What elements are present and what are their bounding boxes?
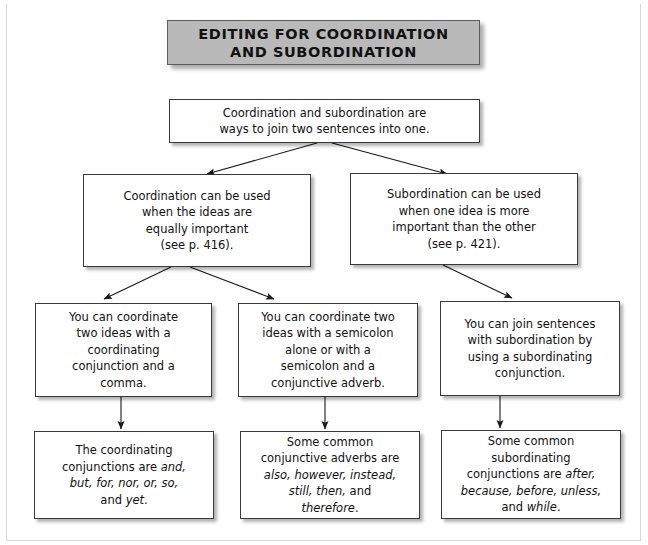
sub3-italic: after, xyxy=(565,467,595,481)
node-coord-semicolon-line2: ideas with a semicolon xyxy=(261,325,395,342)
adv4-italic: still, then, xyxy=(289,484,346,498)
node-subordination: Subordination can be used when one idea … xyxy=(350,173,578,265)
node-conjunctive-adverb-list-line3: also, however, instead, xyxy=(261,467,399,484)
sub3-plain: conjunctions are xyxy=(467,467,566,481)
list3-italic: but, for, nor, or, so, xyxy=(70,476,179,490)
node-subord-conjunction-line3: using a subordinating xyxy=(465,349,596,366)
node-coord-conjunction-line1: You can coordinate xyxy=(69,309,178,326)
node-subord-conjunction-list-line1: Some common xyxy=(461,433,601,450)
node-subord-conjunction-line1: You can join sentences xyxy=(465,316,596,333)
node-coordination-line2: when the ideas are xyxy=(123,204,270,221)
edge-coordination-to-coord-semicolon xyxy=(190,267,274,299)
node-coord-semicolon-line5: conjunctive adverb. xyxy=(261,375,395,392)
list4-end: . xyxy=(144,493,148,507)
node-coord-conjunction-list-line1: The coordinating xyxy=(62,442,186,459)
node-subord-conjunction-list-line2: subordinating xyxy=(461,450,601,467)
node-coord-semicolon-line1: You can coordinate two xyxy=(261,309,395,326)
node-conjunctive-adverb-list-line1: Some common xyxy=(261,434,399,451)
node-subordination-line3: important than the other xyxy=(387,219,541,236)
node-subord-conjunction: You can join sentences with subordinatio… xyxy=(440,301,620,396)
page-rule-left xyxy=(6,4,7,541)
adv3-italic: also, however, instead, xyxy=(264,468,396,482)
node-subord-conjunction-list-line5: and while. xyxy=(461,499,601,516)
node-coord-conjunction-list-line4: and yet. xyxy=(62,492,186,509)
node-coord-conjunction-list-line3: but, for, nor, or, so, xyxy=(62,475,186,492)
edge-subordination-to-subord-conjunction xyxy=(443,265,512,298)
diagram-title-line2: AND SUBORDINATION xyxy=(198,43,448,61)
list2-plain: conjunctions are xyxy=(62,460,161,474)
node-coord-conjunction-line4: conjunction and a xyxy=(69,358,178,375)
node-subord-conjunction-line2: with subordination by xyxy=(465,332,596,349)
node-subordination-line2: when one idea is more xyxy=(387,203,541,220)
node-coord-semicolon-line3: alone or with a xyxy=(261,342,395,359)
edge-root-to-coordination xyxy=(207,143,317,174)
node-subord-conjunction-list-line4: because, before, unless, xyxy=(461,483,601,500)
list2-italic: and, xyxy=(161,460,186,474)
node-coord-conjunction-list: The coordinating conjunctions are and, b… xyxy=(34,431,214,519)
node-conjunctive-adverb-list-line4: still, then, and xyxy=(261,483,399,500)
node-coord-conjunction-list-line2: conjunctions are and, xyxy=(62,459,186,476)
node-subord-conjunction-list: Some common subordinating conjunctions a… xyxy=(441,430,621,519)
sub5-plain: and xyxy=(501,500,526,514)
sub5-end: . xyxy=(557,500,561,514)
edge-root-to-subordination xyxy=(332,143,447,174)
node-coordination-line3: equally important xyxy=(123,221,270,238)
node-coord-conjunction-line2: two ideas with a xyxy=(69,325,178,342)
node-coord-conjunction: You can coordinate two ideas with a coor… xyxy=(35,303,212,397)
diagram-title-line1: EDITING FOR COORDINATION xyxy=(198,25,448,43)
node-coordination: Coordination can be used when the ideas … xyxy=(83,174,311,267)
page-rule-right xyxy=(640,4,641,541)
node-root: Coordination and subordination are ways … xyxy=(169,99,480,143)
sub4-italic: because, before, unless, xyxy=(461,484,601,498)
node-root-line2: ways to join two sentences into one. xyxy=(219,121,429,138)
node-subordination-line1: Subordination can be used xyxy=(387,186,541,203)
node-conjunctive-adverb-list-line2: conjunctive adverbs are xyxy=(261,450,399,467)
diagram-title-banner: EDITING FOR COORDINATION AND SUBORDINATI… xyxy=(167,20,480,65)
sub5-italic: while xyxy=(527,500,557,514)
page-rule-bottom xyxy=(6,540,641,541)
node-subord-conjunction-list-line3: conjunctions are after, xyxy=(461,466,601,483)
list4-plain: and xyxy=(100,493,125,507)
node-coord-conjunction-line3: coordinating xyxy=(69,342,178,359)
node-coord-semicolon-line4: semicolon and a xyxy=(261,358,395,375)
edge-coordination-to-coord-conjunction xyxy=(104,267,171,299)
node-subordination-line4: (see p. 421). xyxy=(387,236,541,253)
node-conjunctive-adverb-list-line5: therefore. xyxy=(261,500,399,517)
adv5-italic: therefore xyxy=(301,501,355,515)
flowchart-page: EDITING FOR COORDINATION AND SUBORDINATI… xyxy=(0,0,648,545)
adv4-plain: and xyxy=(346,484,371,498)
node-coord-conjunction-line5: comma. xyxy=(69,375,178,392)
adv5-end: . xyxy=(355,501,359,515)
node-root-line1: Coordination and subordination are xyxy=(219,105,429,122)
list4-italic: yet xyxy=(126,493,144,507)
node-coord-semicolon: You can coordinate two ideas with a semi… xyxy=(238,303,418,397)
node-conjunctive-adverb-list: Some common conjunctive adverbs are also… xyxy=(240,431,420,519)
node-subord-conjunction-line4: conjunction. xyxy=(465,365,596,382)
node-coordination-line4: (see p. 416). xyxy=(123,237,270,254)
node-coordination-line1: Coordination can be used xyxy=(123,188,270,205)
